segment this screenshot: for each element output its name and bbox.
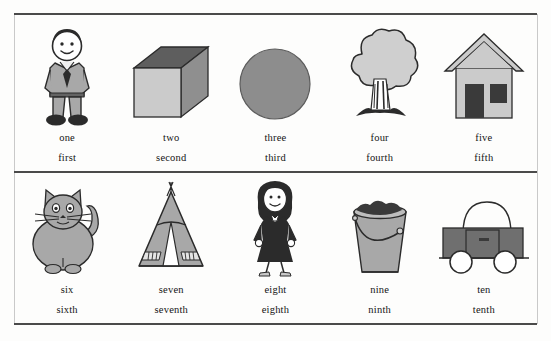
cat-icon (15, 174, 119, 284)
cardinal-label: nine (368, 284, 391, 296)
chart-cell-one: one first (15, 16, 119, 170)
cardinal-label: six (56, 284, 77, 296)
chart-labels-one: one first (58, 132, 76, 170)
chart-labels-seven: seven seventh (155, 284, 188, 322)
woman-icon (223, 174, 327, 284)
rule-middle (14, 171, 537, 173)
ordinal-label: seventh (155, 304, 188, 316)
ordinal-label: tenth (473, 304, 495, 316)
teepee-icon (119, 174, 223, 284)
chart-cell-seven: seven seventh (119, 174, 223, 322)
ordinal-label: first (58, 152, 76, 164)
chart-labels-three: three third (264, 132, 286, 170)
cardinal-label: one (58, 132, 76, 144)
frame-right-edge (537, 14, 538, 324)
cardinal-label: three (264, 132, 286, 144)
row-six-to-ten: six sixth (15, 174, 536, 322)
chart-cell-six: six sixth (15, 174, 119, 322)
ordinal-label: fourth (366, 152, 393, 164)
chart-cell-four: four fourth (328, 16, 432, 170)
chart-cell-five: five fifth (432, 16, 536, 170)
chart-labels-two: two second (156, 132, 186, 170)
chart-labels-nine: nine ninth (368, 284, 391, 322)
box-icon (119, 16, 223, 132)
ordinal-label: ninth (368, 304, 391, 316)
chart-labels-ten: ten tenth (473, 284, 495, 322)
rule-top (14, 13, 537, 15)
house-icon (432, 16, 536, 132)
chart-labels-eight: eight eighth (262, 284, 289, 322)
chart-labels-five: five fifth (474, 132, 493, 170)
ordinal-label: third (264, 152, 286, 164)
cardinal-label: eight (262, 284, 289, 296)
ordinal-label: second (156, 152, 186, 164)
numbers-chart-sheet: one first two second (0, 0, 551, 341)
rule-bottom (14, 323, 537, 325)
ordinal-label: sixth (56, 304, 77, 316)
cardinal-label: seven (155, 284, 188, 296)
circle-icon (223, 16, 327, 132)
chart-cell-eight: eight eighth (223, 174, 327, 322)
chart-labels-four: four fourth (366, 132, 393, 170)
cardinal-label: five (474, 132, 493, 144)
chart-cell-three: three third (223, 16, 327, 170)
cardinal-label: ten (473, 284, 495, 296)
chart-labels-six: six sixth (56, 284, 77, 322)
chart-cell-ten: ten tenth (432, 174, 536, 322)
cardinal-label: four (366, 132, 393, 144)
chart-cell-two: two second (119, 16, 223, 170)
boy-icon (15, 16, 119, 132)
ordinal-label: fifth (474, 152, 493, 164)
tree-icon (328, 16, 432, 132)
row-one-to-five: one first two second (15, 16, 536, 170)
ordinal-label: eighth (262, 304, 289, 316)
bucket-icon (328, 174, 432, 284)
cardinal-label: two (156, 132, 186, 144)
chart-cell-nine: nine ninth (328, 174, 432, 322)
car-icon (432, 174, 536, 284)
